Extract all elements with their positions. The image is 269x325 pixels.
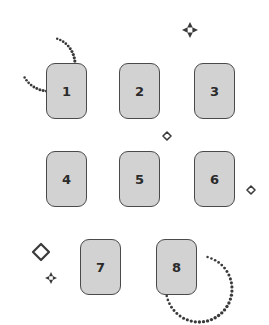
- card-label: 2: [135, 85, 144, 98]
- sparkle-petal: [182, 27, 188, 32]
- arc-dot: [198, 320, 201, 323]
- arc-dot: [179, 315, 182, 318]
- card-2[interactable]: 2: [119, 63, 160, 119]
- sparkle-petal: [192, 27, 198, 32]
- arc-dot: [202, 320, 205, 323]
- arc-dot: [42, 89, 45, 92]
- arc-dot: [230, 289, 233, 292]
- arc-dot: [227, 274, 230, 277]
- card-4[interactable]: 4: [46, 151, 87, 207]
- card-label: 1: [62, 85, 71, 98]
- arc-dot: [69, 47, 72, 50]
- arc-dot: [230, 281, 233, 284]
- arc-dot: [35, 87, 38, 90]
- arc-dot: [186, 318, 189, 321]
- arc-dot: [62, 40, 65, 43]
- arc-dot: [173, 309, 176, 312]
- arc-dot: [67, 45, 70, 48]
- arc-dot: [167, 299, 170, 302]
- arc-dot: [30, 84, 33, 87]
- arc-dot: [64, 42, 67, 45]
- sparkle-top: [182, 22, 198, 38]
- arc-dot: [175, 312, 178, 315]
- arc-dot: [194, 320, 197, 323]
- card-3[interactable]: 3: [194, 63, 235, 119]
- sparkle-petal: [49, 280, 53, 284]
- card-5[interactable]: 5: [119, 151, 160, 207]
- card-1[interactable]: 1: [46, 63, 87, 119]
- arc-dot: [70, 50, 73, 53]
- card-label: 5: [135, 173, 144, 186]
- arc-dot: [230, 285, 233, 288]
- arc-dot: [230, 293, 233, 296]
- arc-dot: [217, 314, 220, 317]
- sparkle-petal: [187, 22, 192, 28]
- arc-dot: [229, 277, 232, 280]
- arc-dot: [23, 76, 26, 79]
- large-diamond-left: [33, 244, 49, 260]
- arc-dot: [165, 295, 168, 298]
- arc-dot: [27, 81, 30, 84]
- card-label: 3: [210, 85, 219, 98]
- arc-dot: [227, 301, 230, 304]
- arc-dot: [214, 259, 217, 262]
- arc-dot: [190, 319, 193, 322]
- sparkle-petal: [53, 276, 57, 280]
- arc-dot: [182, 317, 185, 320]
- arc-dot: [25, 79, 28, 82]
- arc-dot: [59, 39, 62, 42]
- arc-dot: [225, 270, 228, 273]
- card-label: 7: [96, 261, 105, 274]
- arc-dot: [220, 311, 223, 314]
- arc-dot: [72, 53, 75, 56]
- arc-dot: [206, 256, 209, 259]
- arc-dot: [217, 261, 220, 264]
- arc-dot: [32, 86, 35, 89]
- sparkle-petal: [187, 32, 192, 38]
- card-6[interactable]: 6: [194, 151, 235, 207]
- sparkle-petal: [45, 276, 49, 280]
- card-label: 8: [172, 261, 181, 274]
- card-label: 4: [62, 173, 71, 186]
- arc-dot: [229, 297, 232, 300]
- arc-dot: [38, 88, 41, 91]
- sparkle-bottom-left: [45, 272, 57, 284]
- card-label: 6: [210, 173, 219, 186]
- arc-dot: [170, 306, 173, 309]
- arc-dot: [225, 305, 228, 308]
- sparkle-petal: [49, 272, 53, 276]
- arc-dot: [206, 319, 209, 322]
- small-diamond-right: [247, 186, 255, 194]
- arc-dot: [168, 302, 171, 305]
- arc-dot: [210, 257, 213, 260]
- arc-dot: [220, 264, 223, 267]
- card-7[interactable]: 7: [80, 239, 121, 295]
- card-8[interactable]: 8: [156, 239, 197, 295]
- arc-dot: [223, 308, 226, 311]
- card-grid-canvas: 12345678: [0, 0, 269, 325]
- arc-dot: [73, 56, 76, 59]
- small-diamond-center: [163, 132, 171, 140]
- arc-dot: [223, 267, 226, 270]
- arc-dot: [213, 316, 216, 319]
- arc-dot: [210, 318, 213, 321]
- arc-dot: [56, 37, 59, 40]
